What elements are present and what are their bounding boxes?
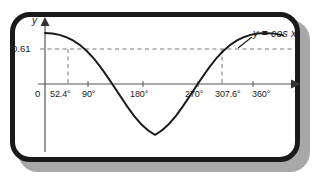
equation-label: y = cos x — [253, 28, 297, 39]
x-tick-label-307-6: 307.6° — [215, 90, 241, 99]
x-tick-label-270: 270° — [185, 90, 203, 99]
cosine-graph-figure: y x 0 0.61 y = cos x 52.4° 90° 180° 270°… — [0, 0, 329, 179]
y-value-label-0-61: 0.61 — [12, 44, 31, 54]
plot-area: y x 0 0.61 y = cos x 52.4° 90° 180° 270°… — [10, 12, 300, 162]
origin-label: 0 — [35, 89, 40, 99]
x-axis-label: x — [295, 84, 300, 94]
x-tick-label-360: 360° — [252, 90, 270, 99]
x-tick-label-52-4: 52.4° — [50, 90, 71, 99]
x-axis — [38, 80, 300, 89]
x-tick-label-180: 180° — [130, 90, 148, 99]
y-axis-label: y — [32, 16, 37, 26]
x-tick-label-90: 90° — [82, 90, 95, 99]
